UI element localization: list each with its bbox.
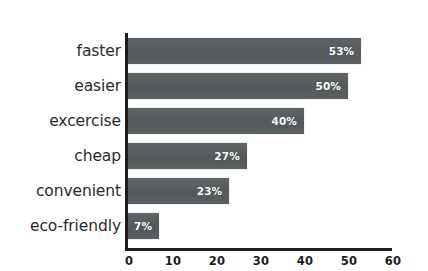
- x-axis-tick-label: 50: [341, 254, 357, 268]
- category-label: excercise: [49, 112, 121, 130]
- bar-value-label: 7%: [134, 220, 152, 232]
- bar-row: convenient 23%: [0, 178, 428, 204]
- category-label: easier: [74, 77, 121, 95]
- category-label: cheap: [74, 147, 121, 165]
- category-label: convenient: [36, 182, 121, 200]
- bar: 27%: [128, 143, 247, 169]
- category-label: eco-friendly: [30, 217, 121, 235]
- bar-value-label: 27%: [214, 150, 239, 162]
- bar: 7%: [128, 213, 159, 239]
- bar-row: faster 53%: [0, 38, 428, 64]
- bar: 50%: [128, 73, 348, 99]
- x-axis-tick-label: 30: [253, 254, 269, 268]
- x-axis-tick-label: 60: [385, 254, 401, 268]
- bar-row: excercise 40%: [0, 108, 428, 134]
- bar-value-label: 53%: [329, 45, 354, 57]
- bar-chart: faster 53% easier 50% excercise 40% chea…: [0, 0, 428, 271]
- x-axis-tick-label: 40: [297, 254, 313, 268]
- x-axis-tick-label: 20: [209, 254, 225, 268]
- x-axis-line: [125, 248, 392, 251]
- bar-value-label: 23%: [197, 185, 222, 197]
- x-axis-tick-label: 10: [165, 254, 181, 268]
- bar: 40%: [128, 108, 304, 134]
- bar-row: cheap 27%: [0, 143, 428, 169]
- x-axis-tick-label: 0: [125, 254, 133, 268]
- bar-value-label: 40%: [272, 115, 297, 127]
- category-label: faster: [77, 42, 121, 60]
- plot-area: faster 53% easier 50% excercise 40% chea…: [0, 0, 428, 271]
- bar-row: eco-friendly 7%: [0, 213, 428, 239]
- bar-value-label: 50%: [316, 80, 341, 92]
- bar: 23%: [128, 178, 229, 204]
- bar: 53%: [128, 38, 361, 64]
- bar-row: easier 50%: [0, 73, 428, 99]
